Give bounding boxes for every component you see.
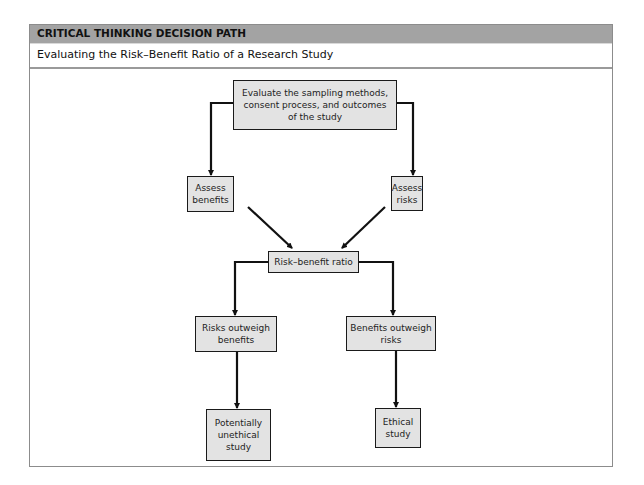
- node-risk-benefit-ratio: Risk–benefit ratio: [268, 251, 359, 273]
- arrow-evaluate-to-risks: [397, 103, 413, 175]
- arrow-ratio-to-risks-outweigh: [235, 262, 268, 315]
- node-benefits-outweigh-risks: Benefits outweigh risks: [346, 316, 436, 351]
- arrow-evaluate-to-benefits: [211, 103, 233, 175]
- node-ethical-study: Ethical study: [375, 408, 421, 448]
- node-assess-risks: Assess risks: [391, 176, 423, 211]
- node-evaluate: Evaluate the sampling methods, consent p…: [233, 80, 397, 130]
- node-potentially-unethical-study: Potentially unethical study: [206, 409, 271, 461]
- arrow-benefits-to-ratio: [248, 207, 292, 248]
- node-risks-outweigh-benefits: Risks outweigh benefits: [195, 316, 277, 352]
- arrow-risks-to-ratio: [342, 207, 385, 248]
- connector-arrows: [0, 0, 644, 485]
- node-assess-benefits: Assess benefits: [187, 176, 234, 212]
- arrow-ratio-to-benefits-outweigh: [359, 262, 393, 315]
